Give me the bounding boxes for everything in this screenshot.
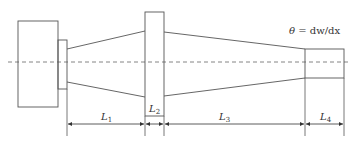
label-L2: L2 <box>148 103 160 116</box>
collar <box>58 40 67 89</box>
flange-segment-2 <box>145 12 164 116</box>
label-L1: L1 <box>100 111 112 124</box>
label-L4: L4 <box>319 111 332 124</box>
label-L3: L3 <box>218 111 230 124</box>
taper-segment-3 <box>164 32 305 96</box>
slope-annotation: θ = dw/dx <box>289 25 340 36</box>
taper-segment-1 <box>67 31 145 97</box>
shaft-diagram: L1 L2 L3 L4 θ = dw/dx <box>0 0 352 144</box>
base-block <box>18 21 58 107</box>
cylinder-segment-4 <box>305 49 344 78</box>
extension-lines <box>67 78 344 136</box>
